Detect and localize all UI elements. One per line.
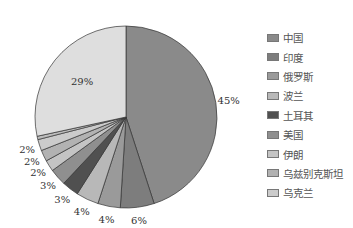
legend-item: 波兰 [267,86,343,105]
legend-swatch [267,189,279,197]
legend-item: 美国 [267,125,343,144]
legend-item: 土耳其 [267,106,343,125]
legend-swatch [267,169,279,177]
legend-swatch [267,53,279,61]
slice-label: 6% [131,215,147,226]
slice-label: 4% [99,214,115,225]
slice-label: 2% [30,167,46,178]
legend-item: 俄罗斯 [267,67,343,86]
legend-label: 俄罗斯 [283,69,313,84]
slice-label: 3% [54,194,70,205]
legend-item: 印度 [267,47,343,66]
slice-label: 3% [40,180,56,191]
legend-swatch [267,131,279,139]
slice-label: 2% [24,156,40,167]
legend-swatch [267,34,279,42]
legend-label: 伊朗 [283,147,303,162]
slice-label: 2% [19,144,35,155]
legend-item: 伊朗 [267,144,343,163]
legend-label: 中国 [283,30,303,45]
legend-label: 乌兹别克斯坦 [283,166,343,181]
legend-label: 美国 [283,127,303,142]
slice-label: 29% [71,76,93,87]
legend-swatch [267,111,279,119]
legend-item: 中国 [267,28,343,47]
legend-label: 波兰 [283,88,303,103]
legend-label: 印度 [283,50,303,65]
legend-swatch [267,92,279,100]
legend-label: 土耳其 [283,108,313,123]
slice-label: 4% [74,206,90,217]
legend: 中国 印度 俄罗斯 波兰 土耳其 美国 伊朗 乌兹别克斯坦 乌克兰 [267,28,343,203]
slice-label: 45% [218,95,240,106]
legend-label: 乌克兰 [283,185,313,200]
legend-item: 乌克兰 [267,183,343,202]
legend-swatch [267,72,279,80]
legend-swatch [267,150,279,158]
legend-item: 乌兹别克斯坦 [267,164,343,183]
